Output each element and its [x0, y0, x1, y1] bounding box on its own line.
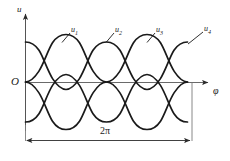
x-axis-label: φ — [213, 86, 219, 96]
leader-line-u4 — [188, 32, 203, 44]
origin-label: O — [11, 76, 19, 87]
curve-label-u2: u2 — [115, 26, 122, 36]
curve-label-u1-index: 1 — [75, 30, 78, 36]
curve-label-u3: u3 — [156, 26, 163, 36]
y-axis-label: u — [17, 5, 22, 14]
sinusoid-diagram: u φ O u1 u2 u3 u4 2π — [0, 0, 230, 161]
leader-line-u2 — [106, 33, 114, 43]
curve-label-u4-index: 4 — [208, 29, 211, 35]
curve-label-u3-index: 3 — [160, 30, 163, 36]
curve-label-u4: u4 — [204, 25, 211, 35]
curve-label-u1: u1 — [71, 26, 78, 36]
period-span-label: 2π — [100, 126, 110, 136]
curve-label-u2-index: 2 — [119, 30, 122, 36]
